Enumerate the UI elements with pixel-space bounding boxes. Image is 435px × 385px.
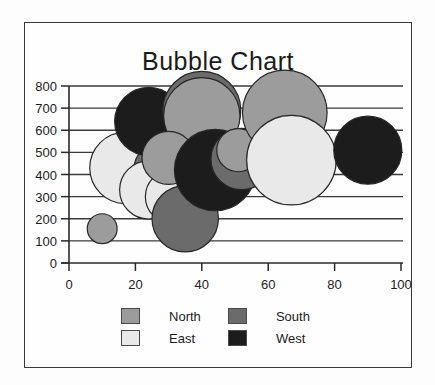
legend-swatch-south xyxy=(228,308,247,324)
x-tick-label: 40 xyxy=(195,277,209,292)
chart-legend: North South East West xyxy=(121,305,331,349)
chart-frame: Bubble Chart 010020030040050060070080002… xyxy=(24,22,412,368)
legend-swatch-north xyxy=(121,308,140,324)
y-tick-label: 800 xyxy=(35,79,57,94)
y-tick-label: 400 xyxy=(35,168,57,183)
x-tick-label: 80 xyxy=(327,277,341,292)
x-tick-label: 20 xyxy=(128,277,142,292)
bubble-north xyxy=(87,214,117,244)
legend-swatch-east xyxy=(121,330,140,346)
bubble-east xyxy=(247,115,337,205)
legend-swatch-west xyxy=(228,330,247,346)
x-tick-label: 0 xyxy=(65,277,72,292)
y-tick-label: 100 xyxy=(35,234,57,249)
legend-label-south: South xyxy=(274,309,331,324)
legend-label-east: East xyxy=(167,331,222,346)
x-tick-label: 100 xyxy=(390,277,412,292)
y-tick-label: 500 xyxy=(35,145,57,160)
y-tick-label: 0 xyxy=(50,256,57,271)
legend-label-west: West xyxy=(274,331,331,346)
y-tick-label: 600 xyxy=(35,123,57,138)
y-tick-label: 300 xyxy=(35,190,57,205)
y-tick-label: 700 xyxy=(35,101,57,116)
y-tick-label: 200 xyxy=(35,212,57,227)
legend-label-north: North xyxy=(167,309,222,324)
x-tick-label: 60 xyxy=(261,277,275,292)
bubble-west xyxy=(334,116,402,184)
